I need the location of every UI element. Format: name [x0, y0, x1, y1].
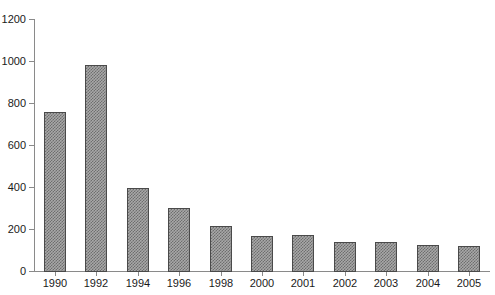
x-axis-tick [96, 272, 97, 276]
y-axis-tick [29, 145, 34, 146]
y-axis-tick [29, 271, 34, 272]
x-axis-tick [138, 272, 139, 276]
x-axis-tick [55, 272, 56, 276]
y-axis-tick-label: 400 [0, 182, 26, 193]
x-axis-tick [262, 272, 263, 276]
bar [251, 236, 273, 272]
x-axis-tick [428, 272, 429, 276]
bar-chart: 020040060080010001200 199019921994199619… [0, 0, 495, 295]
bar [375, 242, 397, 272]
bar [85, 65, 107, 272]
y-axis-tick [29, 229, 34, 230]
bar [458, 246, 480, 272]
bar [292, 235, 314, 272]
y-axis-tick [29, 61, 34, 62]
y-axis-tick-label: 600 [0, 140, 26, 151]
y-axis-tick-label: 0 [0, 266, 26, 277]
y-axis-tick-label: 800 [0, 98, 26, 109]
y-axis-tick [29, 187, 34, 188]
x-axis-tick [221, 272, 222, 276]
x-axis-tick [303, 272, 304, 276]
x-axis-tick [345, 272, 346, 276]
y-axis-tick-label: 200 [0, 224, 26, 235]
bar [44, 112, 66, 272]
x-axis-tick [386, 272, 387, 276]
bar [210, 226, 232, 272]
bar [417, 245, 439, 272]
y-axis-tick [29, 19, 34, 20]
bar [334, 242, 356, 272]
y-axis-tick-label: 1000 [0, 56, 26, 67]
x-axis-tick [469, 272, 470, 276]
bar [127, 188, 149, 272]
x-axis-tick-label: 2005 [444, 277, 494, 289]
y-axis-tick [29, 103, 34, 104]
y-axis-line [34, 19, 35, 272]
bar [168, 208, 190, 272]
x-axis-tick [179, 272, 180, 276]
y-axis-tick-label: 1200 [0, 14, 26, 25]
